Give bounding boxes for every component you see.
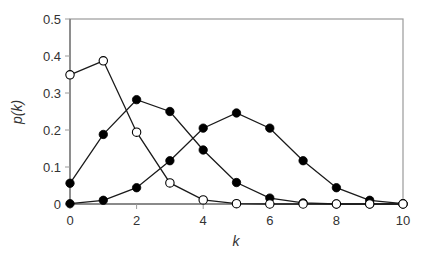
open-circle-marker	[66, 71, 74, 79]
filled-circle-marker	[266, 124, 274, 132]
x-tick-label: 6	[266, 213, 273, 228]
open-circle-marker	[266, 200, 274, 208]
open-circle-marker	[332, 200, 340, 208]
y-tick-label: 0.3	[43, 86, 61, 101]
filled-circle-marker	[132, 184, 140, 192]
x-tick-label: 8	[333, 213, 340, 228]
y-tick-label: 0.5	[43, 12, 61, 27]
filled-circle-marker	[232, 109, 240, 117]
x-axis-label: k	[233, 233, 241, 249]
open-circle-marker	[232, 199, 240, 207]
open-circle-marker	[132, 128, 140, 136]
open-circle-marker	[399, 200, 407, 208]
open-circle-marker	[199, 196, 207, 204]
filled-circle-marker	[99, 130, 107, 138]
open-circle-marker	[366, 200, 374, 208]
x-tick-label: 0	[66, 213, 73, 228]
filled-circle-marker	[166, 157, 174, 165]
series-line	[70, 113, 403, 204]
chart: 00.10.20.30.40.5 0246810 k p(k)	[0, 0, 422, 256]
y-tick-label: 0.1	[43, 160, 61, 175]
open-circle-marker	[299, 200, 307, 208]
filled-circle-marker	[232, 178, 240, 186]
filled-circle-marker	[332, 184, 340, 192]
filled-circle-marker	[66, 199, 74, 207]
data-series	[66, 57, 407, 209]
filled-circle-marker	[99, 196, 107, 204]
x-tick-label: 2	[133, 213, 140, 228]
filled-circle-marker	[66, 179, 74, 187]
series-filled-peak-5	[66, 109, 407, 208]
filled-circle-marker	[199, 146, 207, 154]
filled-circle-marker	[132, 95, 140, 103]
filled-circle-marker	[166, 107, 174, 115]
filled-circle-marker	[199, 124, 207, 132]
open-circle-marker	[166, 179, 174, 187]
y-tick-label: 0	[54, 197, 61, 212]
open-circle-marker	[99, 57, 107, 65]
x-tick-label: 10	[396, 213, 410, 228]
y-tick-label: 0.4	[43, 49, 61, 64]
x-tick-label: 4	[200, 213, 207, 228]
y-tick-label: 0.2	[43, 123, 61, 138]
y-axis-label: p(k)	[9, 100, 25, 125]
filled-circle-marker	[299, 157, 307, 165]
